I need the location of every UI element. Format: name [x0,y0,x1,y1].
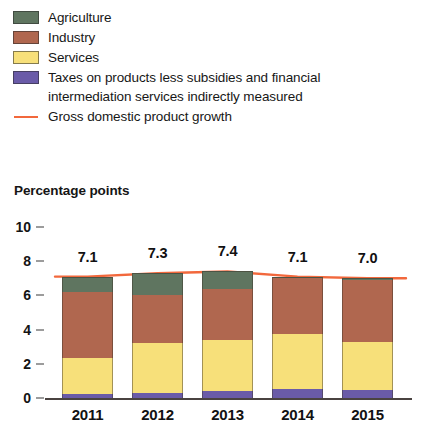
y-axis-tick-label: 6 [0,287,31,303]
bar-segment [342,342,393,390]
y-axis-tick-mark [36,398,44,399]
y-axis-tick-label: 0 [0,390,31,406]
x-axis-tick-label: 2013 [211,406,244,423]
y-axis-tick-mark [36,261,44,262]
bar-segment [62,358,113,394]
x-axis-tick-label: 2012 [141,406,174,423]
x-axis-tick-label: 2011 [72,406,104,423]
bar-value-label: 7.4 [218,243,238,259]
bar-value-label: 7.1 [78,249,98,265]
bar-segment [202,340,253,391]
bar-segment [342,280,393,342]
bar-segment [62,292,113,358]
y-axis-tick-label: 2 [0,356,31,372]
bar-value-label: 7.0 [358,250,378,266]
bar-segment [132,273,183,295]
bar-segment [132,295,183,343]
bar-2012[interactable] [132,273,183,398]
bar-segment [202,289,253,340]
y-axis-tick-mark [36,227,44,228]
bar-segment [272,334,323,389]
y-axis-tick-label: 10 [0,219,31,235]
bar-segment [62,394,113,398]
bar-2013[interactable] [202,271,253,398]
bar-segment [342,390,393,398]
x-axis-baseline [45,398,412,400]
y-axis-tick-mark [36,329,44,330]
bar-2014[interactable] [272,277,323,398]
x-axis-tick-label: 2014 [281,406,314,423]
y-axis-tick-mark [36,295,44,296]
bar-segment [202,391,253,398]
y-axis-tick-mark [36,363,44,364]
bar-value-label: 7.1 [288,249,308,265]
y-axis-tick-label: 4 [0,322,31,338]
bar-2015[interactable] [342,278,393,398]
bar-segment [132,343,183,393]
bar-value-label: 7.3 [148,245,168,261]
bar-segment [202,271,253,288]
chart-plot-area: 02468107.120117.320127.420137.120147.020… [0,0,423,429]
y-axis-tick-label: 8 [0,253,31,269]
bar-segment [62,277,113,292]
bar-segment [272,389,323,398]
x-axis-tick-label: 2015 [351,406,384,423]
bar-segment [272,278,323,334]
bar-2011[interactable] [62,277,113,398]
bar-segment [132,393,183,398]
